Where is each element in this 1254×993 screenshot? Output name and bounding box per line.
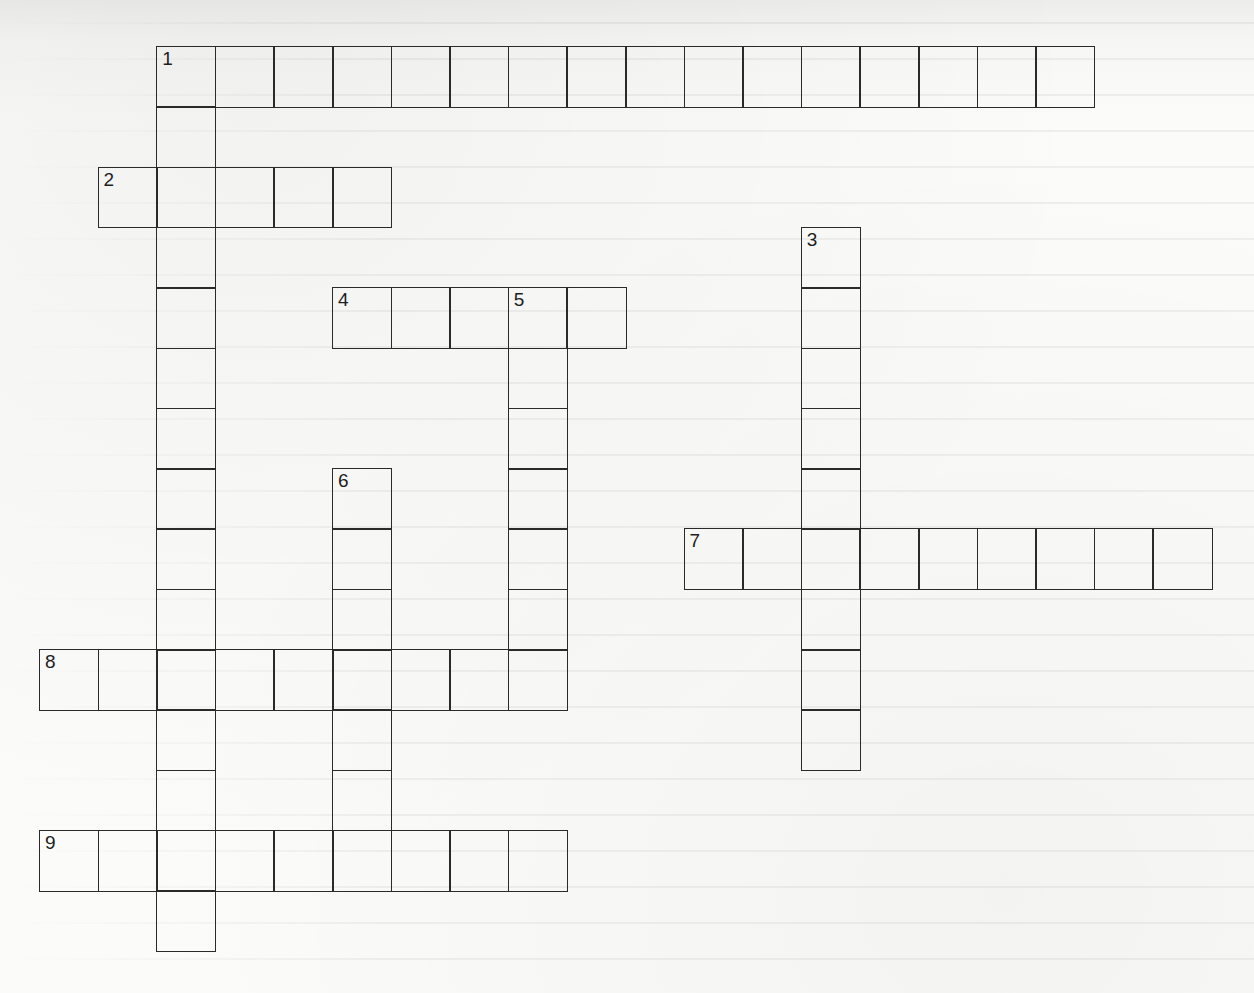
letter-input[interactable] [157, 650, 215, 710]
crossword-cell[interactable] [1035, 46, 1095, 108]
crossword-cell[interactable] [156, 589, 216, 651]
letter-input[interactable] [333, 590, 391, 650]
crossword-cell[interactable]: 5 [508, 287, 568, 349]
crossword-cell[interactable]: 8 [39, 649, 99, 711]
letter-input[interactable] [333, 650, 391, 710]
letter-input[interactable] [802, 469, 860, 529]
crossword-cell[interactable] [273, 167, 333, 229]
crossword-cell[interactable] [918, 46, 978, 108]
letter-input[interactable] [802, 590, 860, 650]
crossword-cell[interactable] [332, 830, 392, 892]
letter-input[interactable] [567, 47, 625, 107]
crossword-cell[interactable] [332, 770, 392, 832]
crossword-cell[interactable]: 9 [39, 830, 99, 892]
letter-input[interactable] [157, 228, 215, 288]
letter-input[interactable] [157, 590, 215, 650]
crossword-cell[interactable] [625, 46, 685, 108]
letter-input[interactable] [919, 529, 977, 589]
crossword-cell[interactable] [273, 649, 333, 711]
letter-input[interactable] [157, 891, 215, 951]
crossword-cell[interactable] [508, 830, 568, 892]
letter-input[interactable] [685, 47, 743, 107]
crossword-cell[interactable] [508, 46, 568, 108]
crossword-cell[interactable] [332, 167, 392, 229]
letter-input[interactable] [157, 349, 215, 409]
letter-input[interactable] [1153, 529, 1211, 589]
crossword-cell[interactable] [273, 46, 333, 108]
letter-input[interactable] [450, 47, 508, 107]
letter-input[interactable] [333, 47, 391, 107]
letter-input[interactable] [450, 650, 508, 710]
crossword-cell[interactable] [391, 46, 451, 108]
crossword-cell[interactable] [156, 770, 216, 832]
letter-input[interactable] [509, 590, 567, 650]
letter-input[interactable] [274, 47, 332, 107]
letter-input[interactable] [333, 771, 391, 831]
letter-input[interactable] [99, 168, 157, 228]
letter-input[interactable] [157, 831, 215, 891]
letter-input[interactable] [157, 409, 215, 469]
letter-input[interactable] [509, 409, 567, 469]
crossword-cell[interactable] [859, 528, 919, 590]
crossword-cell[interactable] [1152, 528, 1212, 590]
crossword-cell[interactable] [156, 408, 216, 470]
crossword-cell[interactable] [508, 649, 568, 711]
crossword-cell[interactable] [801, 649, 861, 711]
crossword-cell[interactable] [98, 830, 158, 892]
crossword-cell[interactable] [449, 287, 509, 349]
letter-input[interactable] [802, 288, 860, 348]
letter-input[interactable] [509, 349, 567, 409]
crossword-cell[interactable] [801, 468, 861, 530]
crossword-cell[interactable] [215, 830, 275, 892]
letter-input[interactable] [685, 529, 743, 589]
crossword-cell[interactable] [98, 649, 158, 711]
letter-input[interactable] [978, 47, 1036, 107]
crossword-cell[interactable] [801, 528, 861, 590]
crossword-cell[interactable] [977, 528, 1037, 590]
crossword-cell[interactable] [742, 46, 802, 108]
letter-input[interactable] [626, 47, 684, 107]
crossword-cell[interactable] [156, 649, 216, 711]
crossword-cell[interactable] [918, 528, 978, 590]
crossword-cell[interactable] [156, 227, 216, 289]
letter-input[interactable] [743, 529, 801, 589]
crossword-cell[interactable] [391, 649, 451, 711]
letter-input[interactable] [392, 47, 450, 107]
letter-input[interactable] [802, 228, 860, 288]
letter-input[interactable] [157, 168, 215, 228]
crossword-cell[interactable] [801, 46, 861, 108]
letter-input[interactable] [392, 650, 450, 710]
letter-input[interactable] [157, 771, 215, 831]
letter-input[interactable] [509, 529, 567, 589]
crossword-cell[interactable] [801, 287, 861, 349]
crossword-cell[interactable] [332, 649, 392, 711]
crossword-cell[interactable] [332, 589, 392, 651]
letter-input[interactable] [333, 168, 391, 228]
letter-input[interactable] [40, 831, 98, 891]
crossword-cell[interactable] [449, 649, 509, 711]
crossword-cell[interactable] [332, 46, 392, 108]
letter-input[interactable] [99, 831, 157, 891]
crossword-cell[interactable] [215, 649, 275, 711]
crossword-cell[interactable]: 6 [332, 468, 392, 530]
letter-input[interactable] [216, 47, 274, 107]
crossword-cell[interactable] [391, 287, 451, 349]
crossword-cell[interactable] [1035, 528, 1095, 590]
crossword-cell[interactable] [215, 167, 275, 229]
letter-input[interactable] [157, 47, 215, 107]
crossword-cell[interactable] [156, 348, 216, 410]
crossword-cell[interactable] [977, 46, 1037, 108]
letter-input[interactable] [333, 831, 391, 891]
crossword-cell[interactable] [684, 46, 744, 108]
letter-input[interactable] [860, 529, 918, 589]
crossword-cell[interactable] [801, 709, 861, 771]
crossword-cell[interactable] [156, 468, 216, 530]
crossword-cell[interactable] [391, 830, 451, 892]
crossword-cell[interactable] [566, 287, 626, 349]
letter-input[interactable] [274, 831, 332, 891]
letter-input[interactable] [509, 650, 567, 710]
letter-input[interactable] [157, 710, 215, 770]
letter-input[interactable] [157, 288, 215, 348]
crossword-cell[interactable] [1094, 528, 1154, 590]
letter-input[interactable] [802, 710, 860, 770]
